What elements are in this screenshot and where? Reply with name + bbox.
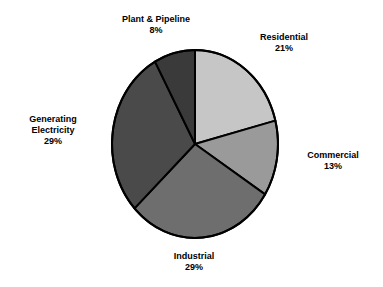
slice-label-residential: Residential 21% <box>239 32 329 54</box>
slice-label-plant-pipeline-name: Plant & Pipeline <box>108 14 204 25</box>
slice-label-plant-pipeline: Plant & Pipeline 8% <box>108 14 204 36</box>
slice-label-commercial: Commercial 13% <box>288 150 378 172</box>
slice-label-generating-electricity-value: 29% <box>10 136 96 147</box>
slice-label-commercial-value: 13% <box>288 161 378 172</box>
slice-label-industrial-name: Industrial <box>151 251 237 262</box>
slice-label-generating-electricity-name-line1: Generating <box>10 114 96 125</box>
slice-label-generating-electricity: Generating Electricity 29% <box>10 114 96 147</box>
slice-label-industrial: Industrial 29% <box>151 251 237 273</box>
slice-label-industrial-value: 29% <box>151 262 237 273</box>
slice-label-plant-pipeline-value: 8% <box>108 25 204 36</box>
pie-chart: Plant & Pipeline 8% Residential 21% Comm… <box>0 0 383 287</box>
slice-label-residential-value: 21% <box>239 43 329 54</box>
slice-label-residential-name: Residential <box>239 32 329 43</box>
slice-label-generating-electricity-name-line2: Electricity <box>10 125 96 136</box>
slice-label-commercial-name: Commercial <box>288 150 378 161</box>
